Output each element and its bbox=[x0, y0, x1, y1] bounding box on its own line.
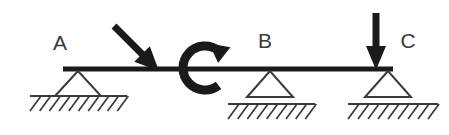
support-b-hatching bbox=[228, 104, 316, 119]
label-point-a: A bbox=[53, 31, 67, 54]
support-c-triangle bbox=[365, 71, 411, 97]
label-point-c: C bbox=[400, 29, 415, 52]
support-a-hatching bbox=[30, 96, 128, 111]
support-a bbox=[30, 71, 128, 111]
support-a-triangle bbox=[55, 71, 101, 96]
vertical-load-arrow-shape bbox=[366, 13, 386, 70]
vertical-load-arrow-icon bbox=[366, 13, 386, 70]
inclined-load-arrow-shape bbox=[112, 24, 159, 71]
support-c-hatching bbox=[348, 104, 439, 119]
beam-member bbox=[63, 67, 393, 72]
support-c bbox=[348, 71, 439, 119]
beam-diagram: A B C bbox=[0, 0, 449, 135]
label-point-b: B bbox=[258, 29, 272, 52]
inclined-load-arrow-icon bbox=[112, 24, 159, 71]
moment-arrowhead bbox=[209, 43, 230, 63]
beam-diagram-canvas: A B C bbox=[0, 0, 449, 135]
support-b bbox=[228, 71, 316, 119]
support-b-triangle bbox=[247, 71, 293, 97]
